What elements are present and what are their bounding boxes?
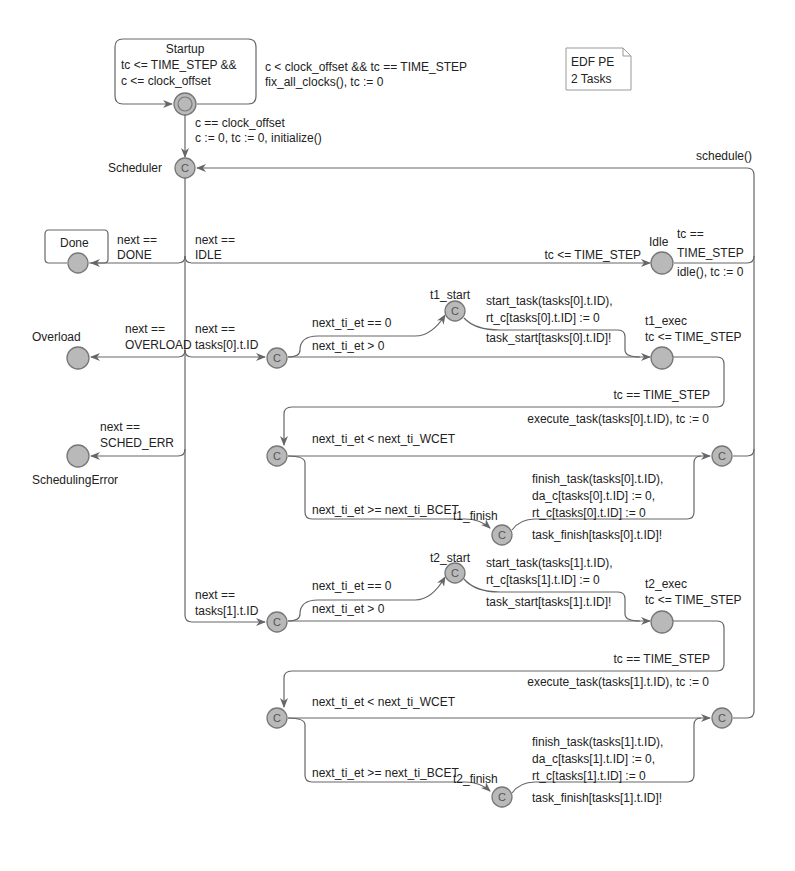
t2-finish-update-2: da_c[tasks[1].t.ID] := 0, xyxy=(532,752,655,766)
t2-start-update-1: start_task(tasks[1].t.ID), xyxy=(486,556,613,570)
task1-ge-bcet-guard: next_ti_et >= next_ti_BCET xyxy=(312,766,459,780)
location-scheduler-name: Scheduler xyxy=(108,161,162,175)
svg-text:C: C xyxy=(451,567,459,579)
task0-select-guard-2: tasks[0].t.ID xyxy=(195,338,259,352)
svg-text:C: C xyxy=(498,791,506,803)
location-t2-exec-name: t2_exec xyxy=(645,577,687,591)
location-t2-start[interactable]: C xyxy=(445,563,465,583)
location-idle-name: Idle xyxy=(649,235,669,249)
svg-text:C: C xyxy=(273,616,281,628)
to-sched-err-guard-2: SCHED_ERR xyxy=(100,436,174,450)
edge-return-schedule xyxy=(197,168,754,718)
t2-start-update-2: rt_c[tasks[1].t.ID] := 0 xyxy=(486,573,600,587)
timed-automaton-diagram: EDF PE 2 Tasks Startup tc <= TIME_STEP &… xyxy=(0,0,795,871)
location-task0-check[interactable]: C xyxy=(267,446,287,466)
location-startup-name: Startup xyxy=(166,42,205,56)
location-task1-check[interactable]: C xyxy=(267,708,287,728)
startup-invariant-2: c <= clock_offset xyxy=(121,74,211,88)
location-t1-finish-name: t1_finish xyxy=(453,509,498,523)
location-overload-name: Overload xyxy=(32,330,81,344)
location-t1-finish[interactable]: C xyxy=(492,525,512,545)
to-sched-err-guard-1: next == xyxy=(100,420,140,434)
location-task0-done[interactable]: C xyxy=(712,446,732,466)
t2-finish-update-3: rt_c[tasks[1].t.ID] := 0 xyxy=(532,769,646,783)
edge-to-sched-error xyxy=(91,449,185,456)
t1-start-sync: task_start[tasks[0].t.ID]! xyxy=(486,331,611,345)
task0-et-pos-guard: next_ti_et > 0 xyxy=(312,339,385,353)
t1-exec-guard: tc == TIME_STEP xyxy=(614,388,710,402)
t1-start-update-1: start_task(tasks[0].t.ID), xyxy=(486,294,613,308)
to-idle-guard-1: next == xyxy=(195,233,235,247)
location-t2-start-name: t2_start xyxy=(430,551,471,565)
startup-self-update: fix_all_clocks(), tc := 0 xyxy=(265,75,384,89)
t2-exec-guard: tc == TIME_STEP xyxy=(614,652,710,666)
t2-finish-update-1: finish_task(tasks[1].t.ID), xyxy=(532,735,663,749)
idle-out-guard-1: tc == xyxy=(677,227,704,241)
location-scheduling-error-name: SchedulingError xyxy=(32,473,118,487)
idle-out-update: idle(), tc := 0 xyxy=(677,265,744,279)
svg-text:C: C xyxy=(273,712,281,724)
svg-text:C: C xyxy=(498,529,506,541)
location-task1-done[interactable]: C xyxy=(712,708,732,728)
task0-lt-wcet-guard: next_ti_et < next_ti_WCET xyxy=(312,432,456,446)
model-note: EDF PE 2 Tasks xyxy=(566,48,631,90)
t1-finish-update-3: rt_c[tasks[0].t.ID] := 0 xyxy=(532,506,646,520)
startup-invariant-1: tc <= TIME_STEP && xyxy=(121,58,237,72)
location-t1-exec-name: t1_exec xyxy=(645,314,687,328)
idle-invariant: tc <= TIME_STEP xyxy=(545,248,641,262)
svg-text:C: C xyxy=(718,712,726,724)
location-scheduling-error[interactable] xyxy=(67,445,89,467)
location-t1-start[interactable]: C xyxy=(445,301,465,321)
to-overload-guard-1: next == xyxy=(125,322,165,336)
location-idle[interactable] xyxy=(651,252,673,274)
svg-text:C: C xyxy=(181,162,189,174)
location-t1-start-name: t1_start xyxy=(430,288,471,302)
location-overload[interactable] xyxy=(67,347,89,369)
svg-text:C: C xyxy=(273,450,281,462)
location-done-name: Done xyxy=(60,236,89,250)
t1-exec-update: execute_task(tasks[0].t.ID), tc := 0 xyxy=(527,412,709,426)
startup-self-guard: c < clock_offset && tc == TIME_STEP xyxy=(265,60,467,74)
task1-et-pos-guard: next_ti_et > 0 xyxy=(312,602,385,616)
location-startup[interactable] xyxy=(174,93,196,115)
idle-out-guard-2: TIME_STEP xyxy=(677,246,744,260)
t2-finish-sync: task_finish[tasks[1].t.ID]! xyxy=(532,791,662,805)
task0-ge-bcet-guard: next_ti_et >= next_ti_BCET xyxy=(312,503,459,517)
task1-select-guard-2: tasks[1].t.ID xyxy=(195,604,259,618)
location-t2-exec[interactable] xyxy=(651,611,673,633)
location-scheduler[interactable]: C xyxy=(175,158,195,178)
startup-to-scheduler-update: c := 0, tc := 0, initialize() xyxy=(195,131,322,145)
location-t1-exec[interactable] xyxy=(651,347,673,369)
edge-task0-return xyxy=(733,449,754,456)
note-title: EDF PE xyxy=(571,55,614,69)
to-idle-guard-2: IDLE xyxy=(195,248,222,262)
task0-select-guard-1: next == xyxy=(195,322,235,336)
task1-lt-wcet-guard: next_ti_et < next_ti_WCET xyxy=(312,695,456,709)
t1-finish-sync: task_finish[tasks[0].t.ID]! xyxy=(532,528,662,542)
location-t2-finish-name: t2_finish xyxy=(453,772,498,786)
t1-exec-invariant: tc <= TIME_STEP xyxy=(645,330,741,344)
t2-exec-update: execute_task(tasks[1].t.ID), tc := 0 xyxy=(527,675,709,689)
task1-select-guard-1: next == xyxy=(195,588,235,602)
task1-et-zero-guard: next_ti_et == 0 xyxy=(312,579,392,593)
t2-exec-invariant: tc <= TIME_STEP xyxy=(645,593,741,607)
to-done-guard-2: DONE xyxy=(117,248,152,262)
t1-start-update-2: rt_c[tasks[0].t.ID] := 0 xyxy=(486,311,600,325)
t1-finish-update-1: finish_task(tasks[0].t.ID), xyxy=(532,472,663,486)
location-done[interactable] xyxy=(68,253,88,273)
location-task1-select[interactable]: C xyxy=(267,612,287,632)
note-subtitle: 2 Tasks xyxy=(571,72,611,86)
to-done-guard-1: next == xyxy=(117,233,157,247)
svg-text:C: C xyxy=(718,450,726,462)
t2-start-sync: task_start[tasks[1].t.ID]! xyxy=(486,595,611,609)
location-t2-finish[interactable]: C xyxy=(492,787,512,807)
task0-et-zero-guard: next_ti_et == 0 xyxy=(312,316,392,330)
svg-text:C: C xyxy=(451,305,459,317)
startup-to-scheduler-guard: c == clock_offset xyxy=(195,116,285,130)
schedule-update: schedule() xyxy=(696,149,752,163)
to-overload-guard-2: OVERLOAD xyxy=(125,338,192,352)
svg-text:C: C xyxy=(273,352,281,364)
location-task0-select[interactable]: C xyxy=(267,348,287,368)
t1-finish-update-2: da_c[tasks[0].t.ID] := 0, xyxy=(532,489,655,503)
